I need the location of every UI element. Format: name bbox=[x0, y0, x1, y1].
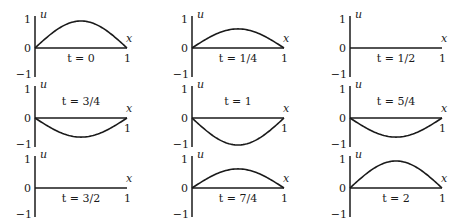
time-label: t = 1/4 bbox=[219, 52, 257, 65]
u-axis-label: u bbox=[40, 148, 47, 161]
y-tick-1: 1 bbox=[339, 153, 346, 166]
x-axis-label: x bbox=[283, 172, 290, 185]
u-axis-label: u bbox=[355, 78, 362, 91]
wave-curve bbox=[350, 161, 442, 188]
time-label: t = 7/4 bbox=[219, 192, 257, 205]
wave-curve bbox=[192, 118, 284, 145]
x-axis-label: x bbox=[441, 102, 448, 115]
y-tick-0: 0 bbox=[24, 42, 31, 55]
x-axis-label: x bbox=[126, 172, 133, 185]
y-tick-1: 1 bbox=[181, 83, 188, 96]
y-tick-minus-1: −1 bbox=[173, 68, 189, 81]
panel-t-3-2: 10−1ux1t = 3/2 bbox=[16, 148, 133, 221]
x-axis-label: x bbox=[283, 102, 290, 115]
u-axis-label: u bbox=[355, 8, 362, 21]
x-axis-label: x bbox=[441, 172, 448, 185]
wave-curve bbox=[350, 118, 442, 137]
x-axis-label: x bbox=[283, 32, 290, 45]
u-axis-label: u bbox=[197, 148, 204, 161]
y-tick-0: 0 bbox=[24, 182, 31, 195]
y-tick-0: 0 bbox=[181, 112, 188, 125]
u-axis-label: u bbox=[197, 78, 204, 91]
time-label: t = 3/4 bbox=[62, 95, 100, 108]
time-label: t = 0 bbox=[67, 52, 95, 65]
y-tick-0: 0 bbox=[339, 112, 346, 125]
x-axis-label: x bbox=[126, 102, 133, 115]
panel-t-1-2: 10−1ux1t = 1/2 bbox=[331, 8, 448, 81]
y-tick-0: 0 bbox=[181, 182, 188, 195]
y-tick-0: 0 bbox=[339, 42, 346, 55]
x-tick-1: 1 bbox=[281, 192, 288, 205]
y-tick-minus-1: −1 bbox=[331, 68, 347, 81]
y-tick-minus-1: −1 bbox=[173, 208, 189, 221]
panel-t-3-4: 10−1ux1t = 3/4 bbox=[16, 78, 133, 151]
y-tick-minus-1: −1 bbox=[331, 208, 347, 221]
u-axis-label: u bbox=[197, 8, 204, 21]
panel-t-5-4: 10−1ux1t = 5/4 bbox=[331, 78, 448, 151]
y-tick-1: 1 bbox=[339, 13, 346, 26]
wave-curve bbox=[192, 169, 284, 188]
panel-t-1-4: 10−1ux1t = 1/4 bbox=[173, 8, 290, 81]
y-tick-0: 0 bbox=[339, 182, 346, 195]
y-tick-1: 1 bbox=[339, 83, 346, 96]
wave-curve bbox=[192, 29, 284, 48]
wave-curve bbox=[35, 21, 127, 48]
time-label: t = 1/2 bbox=[377, 52, 415, 65]
standing-wave-figure: 10−1ux1t = 010−1ux1t = 1/410−1ux1t = 1/2… bbox=[0, 0, 469, 224]
y-tick-minus-1: −1 bbox=[331, 138, 347, 151]
x-tick-1: 1 bbox=[124, 122, 131, 135]
x-tick-1: 1 bbox=[439, 122, 446, 135]
y-tick-1: 1 bbox=[24, 83, 31, 96]
u-axis-label: u bbox=[355, 148, 362, 161]
time-label: t = 1 bbox=[224, 95, 252, 108]
panel-t-0: 10−1ux1t = 0 bbox=[16, 8, 133, 81]
panel-t-2: 10−1ux1t = 2 bbox=[331, 148, 448, 221]
u-axis-label: u bbox=[40, 78, 47, 91]
panel-t-1: 10−1ux1t = 1 bbox=[173, 78, 290, 151]
y-tick-minus-1: −1 bbox=[16, 208, 32, 221]
time-label: t = 3/2 bbox=[62, 192, 100, 205]
y-tick-1: 1 bbox=[181, 153, 188, 166]
x-tick-1: 1 bbox=[124, 52, 131, 65]
x-tick-1: 1 bbox=[281, 122, 288, 135]
x-axis-label: x bbox=[126, 32, 133, 45]
time-label: t = 5/4 bbox=[377, 95, 415, 108]
time-label: t = 2 bbox=[382, 192, 410, 205]
x-tick-1: 1 bbox=[281, 52, 288, 65]
wave-curve bbox=[35, 118, 127, 137]
x-tick-1: 1 bbox=[439, 192, 446, 205]
y-tick-1: 1 bbox=[24, 13, 31, 26]
y-tick-0: 0 bbox=[24, 112, 31, 125]
y-tick-1: 1 bbox=[181, 13, 188, 26]
y-tick-minus-1: −1 bbox=[173, 138, 189, 151]
y-tick-minus-1: −1 bbox=[16, 138, 32, 151]
y-tick-0: 0 bbox=[181, 42, 188, 55]
y-tick-minus-1: −1 bbox=[16, 68, 32, 81]
panel-t-7-4: 10−1ux1t = 7/4 bbox=[173, 148, 290, 221]
x-tick-1: 1 bbox=[124, 192, 131, 205]
u-axis-label: u bbox=[40, 8, 47, 21]
x-tick-1: 1 bbox=[439, 52, 446, 65]
y-tick-1: 1 bbox=[24, 153, 31, 166]
x-axis-label: x bbox=[441, 32, 448, 45]
